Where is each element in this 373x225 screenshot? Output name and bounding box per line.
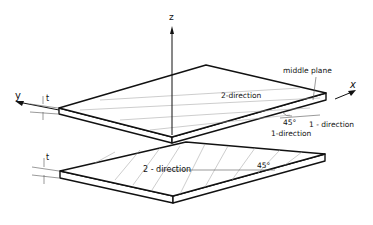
top-ply-2-direction-label: 2-direction (221, 91, 262, 100)
laminate-diagram: z y x t t middle plane 2-direction 45° 1… (0, 0, 373, 225)
x-axis-arrowhead (348, 90, 356, 96)
x-axis-label: x (349, 79, 356, 90)
y-axis-arrowhead (15, 101, 24, 106)
thickness-dimension-top (30, 96, 58, 120)
z-axis-label: z (169, 12, 174, 22)
bottom-ply-angle-label: 45° (257, 161, 271, 170)
middle-plane-label: middle plane (283, 66, 332, 75)
top-ply-1-direction-label-a: 1 - direction (309, 120, 354, 129)
bottom-ply (60, 142, 325, 203)
y-axis-label: y (15, 90, 21, 101)
top-ply-angle-label: 45° (283, 118, 297, 127)
top-ply-thickness-label: t (46, 94, 49, 103)
y-axis (18, 102, 59, 110)
bottom-ply-thickness-label: t (46, 153, 49, 162)
z-axis-arrowhead (170, 26, 174, 34)
bottom-ply-2-direction-label: 2 - direction (143, 165, 191, 174)
top-ply-1-direction-label-b: 1-direction (271, 129, 312, 138)
